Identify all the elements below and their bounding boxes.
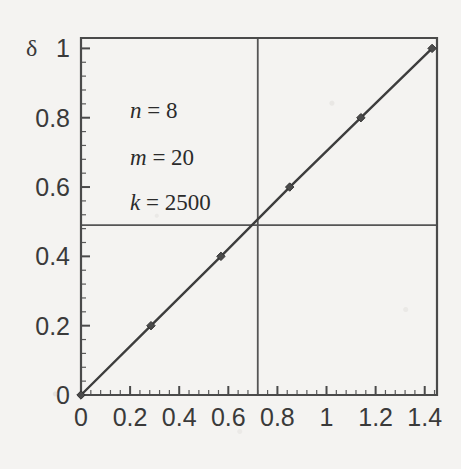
annotation-2-value: 20 [171, 145, 194, 170]
y-tick-label: 0.2 [35, 312, 70, 340]
annotation-1-variable: n [130, 98, 142, 123]
annotation-1-value: 8 [166, 98, 178, 123]
y-tick-label: 0.8 [35, 104, 70, 132]
y-tick-label: 0 [56, 381, 70, 409]
y-tick-label: 0.6 [35, 173, 70, 201]
annotation-line-1: n = 8 [130, 98, 177, 123]
chart-canvas: 00.20.40.60.811.21.4 00.20.40.60.81 δ n … [0, 0, 461, 469]
annotation-3-value: 2500 [165, 190, 211, 215]
x-tick-label: 0.4 [162, 403, 197, 431]
x-tick-label: 0.2 [113, 403, 148, 431]
y-tick-label: 1 [56, 34, 70, 62]
x-tick-label: 1.2 [358, 403, 393, 431]
x-tick-label: 0 [74, 403, 88, 431]
x-tick-label: 0.8 [260, 403, 295, 431]
annotation-line-3: k = 2500 [130, 190, 211, 215]
annotation-2-equals: = [147, 145, 171, 170]
figure-container: 00.20.40.60.811.21.4 00.20.40.60.81 δ n … [0, 0, 461, 469]
annotation-1-equals: = [142, 98, 166, 123]
annotation-2-variable: m [130, 145, 147, 170]
x-tick-label: 1.4 [407, 403, 442, 431]
annotation-3-equals: = [140, 190, 164, 215]
y-axis-label: δ [26, 35, 37, 61]
annotation-line-2: m = 20 [130, 145, 194, 170]
x-tick-label: 1 [320, 403, 334, 431]
y-tick-label: 0.4 [35, 242, 70, 270]
x-tick-label: 0.6 [211, 403, 246, 431]
